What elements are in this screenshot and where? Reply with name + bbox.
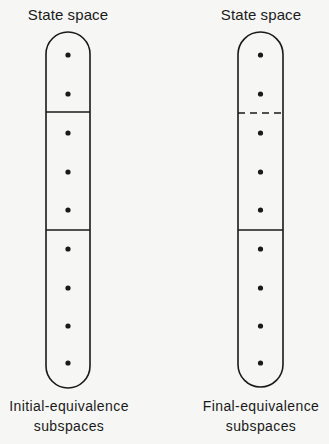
left-state-dot bbox=[65, 323, 70, 328]
right-caption: Final-equivalence subspaces bbox=[186, 396, 329, 436]
right-state-dot bbox=[258, 91, 263, 96]
right-state-dot bbox=[258, 207, 263, 212]
right-state-dot bbox=[258, 285, 263, 290]
state-space-diagram bbox=[0, 0, 329, 444]
left-caption: Initial-equivalence subspaces bbox=[0, 396, 144, 436]
left-state-dot bbox=[65, 52, 70, 57]
left-state-dot bbox=[65, 91, 70, 96]
right-state-dot bbox=[258, 360, 263, 365]
left-state-dot bbox=[65, 169, 70, 174]
right-state-dot bbox=[258, 246, 263, 251]
left-capsule bbox=[46, 32, 90, 388]
right-capsule bbox=[238, 32, 283, 387]
left-state-dot bbox=[65, 130, 70, 135]
right-caption-line1: Final-equivalence bbox=[186, 396, 329, 416]
right-state-dot bbox=[258, 52, 263, 57]
right-state-dot bbox=[258, 130, 263, 135]
left-caption-line2: subspaces bbox=[0, 416, 144, 436]
left-state-dot bbox=[65, 207, 70, 212]
left-state-dot bbox=[65, 285, 70, 290]
right-caption-line2: subspaces bbox=[186, 416, 329, 436]
left-caption-line1: Initial-equivalence bbox=[0, 396, 144, 416]
right-state-dot bbox=[258, 169, 263, 174]
left-state-dot bbox=[65, 360, 70, 365]
right-state-dot bbox=[258, 323, 263, 328]
left-state-dot bbox=[65, 246, 70, 251]
